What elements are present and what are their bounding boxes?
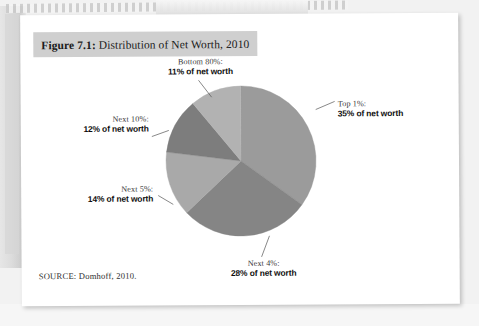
callout-next-10-value: 12% of net worth xyxy=(21,124,149,135)
callout-bottom-80-value: 11% of net worth xyxy=(140,67,260,78)
leader-line-next-4 xyxy=(261,236,269,257)
callout-next-5: Next 5%: 14% of net worth xyxy=(21,185,153,205)
leader-line-top-1 xyxy=(316,101,335,109)
leader-line-bottom-80 xyxy=(199,80,212,97)
callout-next-10: Next 10%: 12% of net worth xyxy=(21,115,149,135)
callout-next-4-value: 28% of net worth xyxy=(204,268,324,279)
leader-line-next-5 xyxy=(158,195,173,204)
pie-slice-group xyxy=(166,86,317,237)
figure-page: Figure 7.1: Distribution of Net Worth, 2… xyxy=(20,13,460,307)
callout-bottom-80: Bottom 80%: 11% of net worth xyxy=(140,57,260,77)
source-note: SOURCE: Domhoff, 2010. xyxy=(39,271,137,282)
callout-top-1: Top 1%: 35% of net worth xyxy=(338,99,458,119)
page-edge-shadow-inner xyxy=(5,14,19,254)
callout-next-4: Next 4%: 28% of net worth xyxy=(204,258,324,278)
callout-top-1-value: 35% of net worth xyxy=(338,108,458,119)
page-bottom-edge xyxy=(0,304,479,326)
callout-next-5-value: 14% of net worth xyxy=(21,194,153,205)
leader-line-next-10 xyxy=(152,130,169,136)
pie-chart: Bottom 80%: 11% of net worth Next 10%: 1… xyxy=(20,13,460,307)
